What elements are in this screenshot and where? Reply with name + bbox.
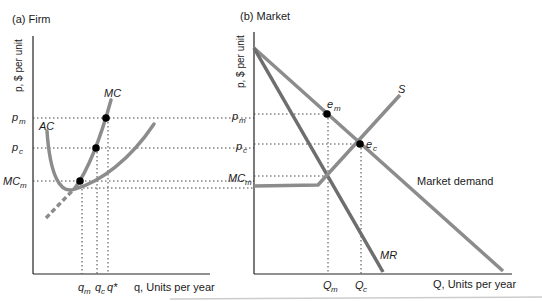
point-em — [323, 110, 331, 118]
svg-text:p: p — [235, 140, 242, 152]
mr-curve — [254, 48, 383, 272]
firm-title: (a) Firm — [12, 13, 51, 25]
firm-qc-label: q c — [95, 281, 105, 296]
mc-label: MC — [104, 87, 121, 99]
monopoly-cartel-diagram: (a) Firm p, $ per unit MC AC p m — [0, 0, 542, 301]
supply-label: S — [398, 83, 406, 95]
svg-text:m: m — [84, 287, 91, 296]
firm-point-pm — [102, 114, 110, 122]
svg-text:MC: MC — [228, 172, 245, 184]
svg-text:p: p — [11, 111, 18, 123]
market-demand-label: Market demand — [417, 175, 493, 187]
market-demand-curve — [254, 48, 503, 271]
market-title: (b) Market — [240, 10, 290, 22]
ac-label: AC — [38, 120, 54, 132]
svg-text:m: m — [239, 116, 246, 125]
svg-text:p: p — [11, 141, 18, 153]
svg-text:c: c — [101, 287, 105, 296]
svg-text:p: p — [231, 110, 238, 122]
svg-text:e: e — [366, 138, 372, 150]
svg-text:m: m — [334, 104, 341, 113]
svg-text:m: m — [245, 178, 252, 187]
firm-qm-label: q m — [78, 281, 91, 296]
market-pm-label: p m — [231, 110, 246, 125]
svg-text:c: c — [373, 144, 377, 153]
firm-point-pc — [92, 144, 100, 152]
firm-panel: (a) Firm p, $ per unit MC AC p m — [3, 13, 254, 296]
firm-x-axis-label: q, Units per year — [134, 281, 215, 293]
svg-text:MC: MC — [3, 175, 20, 187]
svg-text:m: m — [20, 181, 27, 190]
firm-point-mcm — [76, 177, 84, 185]
mc-curve-dashed — [46, 188, 75, 218]
svg-text:m: m — [19, 117, 26, 126]
svg-text:c: c — [19, 147, 23, 156]
firm-qstar-label: q* — [107, 281, 118, 293]
market-pc-label: p c — [235, 140, 247, 155]
market-panel: (b) Market p, $ per unit e m e c S Mar — [228, 10, 516, 294]
firm-pc-label: p c — [11, 141, 23, 156]
market-mcm-label: MC m — [228, 172, 252, 187]
firm-mcm-label: MC m — [3, 175, 27, 190]
Qc-label: Q c — [355, 279, 367, 294]
point-ec — [356, 140, 364, 148]
svg-text:c: c — [363, 285, 367, 294]
Qm-label: Q m — [323, 279, 338, 294]
svg-text:m: m — [331, 285, 338, 294]
market-x-axis-label: Q, Units per year — [433, 278, 516, 290]
firm-y-axis-label: p, $ per unit — [13, 39, 24, 92]
mr-label: MR — [380, 249, 397, 261]
em-label: e m — [327, 98, 341, 113]
svg-text:e: e — [327, 98, 333, 110]
market-y-axis-label: p, $ per unit — [235, 35, 246, 88]
page-edge-divider — [170, 297, 542, 299]
firm-pm-label: p m — [11, 111, 26, 126]
svg-text:c: c — [243, 146, 247, 155]
